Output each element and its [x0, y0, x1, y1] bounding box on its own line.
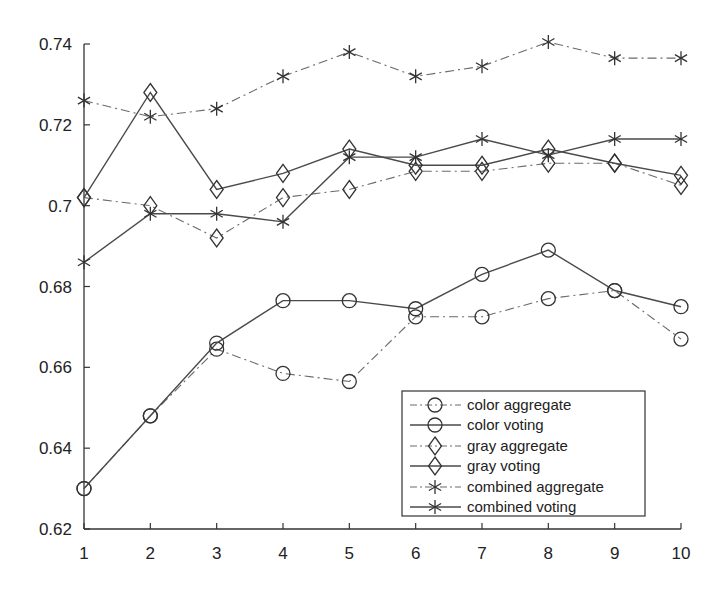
legend-label-combined-aggregate: combined aggregate — [467, 478, 604, 495]
series-line-combined-aggregate — [84, 42, 681, 117]
data-point-asterisk-icon — [476, 132, 488, 146]
series-line-gray-aggregate — [84, 163, 681, 238]
x-tick-label: 3 — [212, 544, 221, 563]
data-point-asterisk-icon — [78, 94, 90, 108]
legend-label-color-voting: color voting — [467, 416, 544, 433]
data-point-asterisk-icon — [675, 51, 687, 65]
y-tick-label: 0.64 — [39, 439, 72, 458]
data-point-asterisk-icon — [211, 102, 223, 116]
data-point-diamond-icon — [277, 189, 290, 207]
legend-label-gray-voting: gray voting — [467, 457, 540, 474]
series-line-combined-voting — [84, 139, 681, 262]
x-tick-label: 1 — [79, 544, 88, 563]
series-gray-aggregate — [78, 154, 688, 247]
data-point-asterisk-icon — [609, 51, 621, 65]
x-tick-label: 10 — [672, 544, 691, 563]
data-point-asterisk-icon — [277, 69, 289, 83]
x-tick-label: 7 — [477, 544, 486, 563]
data-point-asterisk-icon — [78, 255, 90, 269]
legend-label-color-aggregate: color aggregate — [467, 396, 571, 413]
legend-label-combined-voting: combined voting — [467, 498, 576, 515]
x-tick-label: 2 — [146, 544, 155, 563]
y-tick-label: 0.68 — [39, 278, 72, 297]
data-point-circle-icon — [276, 366, 290, 380]
x-axis: 12345678910 — [79, 523, 690, 563]
y-tick-label: 0.74 — [39, 35, 72, 54]
series-combined-voting — [78, 132, 687, 269]
series-gray-voting — [78, 84, 688, 207]
data-point-asterisk-icon — [343, 45, 355, 59]
y-tick-label: 0.72 — [39, 116, 72, 135]
legend-label-gray-aggregate: gray aggregate — [467, 437, 568, 454]
x-tick-label: 6 — [411, 544, 420, 563]
y-tick-label: 0.7 — [48, 197, 72, 216]
legend: color aggregate color voting gray aggreg… — [402, 391, 645, 516]
data-point-asterisk-icon — [410, 69, 422, 83]
data-point-asterisk-icon — [144, 110, 156, 124]
data-point-asterisk-icon — [476, 59, 488, 73]
line-chart: 0.620.640.660.680.70.720.74 12345678910 … — [0, 0, 721, 595]
series-combined-aggregate — [78, 35, 687, 124]
y-tick-label: 0.62 — [39, 520, 72, 539]
y-tick-label: 0.66 — [39, 358, 72, 377]
x-tick-label: 5 — [345, 544, 354, 563]
y-axis: 0.620.640.660.680.70.720.74 — [39, 35, 90, 539]
x-tick-label: 9 — [610, 544, 619, 563]
x-tick-label: 8 — [544, 544, 553, 563]
x-tick-label: 4 — [278, 544, 287, 563]
data-point-asterisk-icon — [542, 35, 554, 49]
